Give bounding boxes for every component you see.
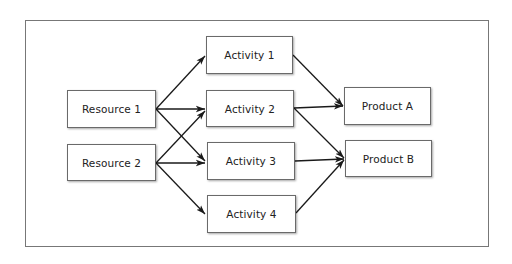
arrow-a3-pb xyxy=(295,159,344,161)
arrow-a4-pb xyxy=(296,160,344,213)
product-b-box: Product B xyxy=(345,140,432,177)
activity-1-box: Activity 1 xyxy=(206,36,293,74)
arrow-r1-a3 xyxy=(156,109,205,161)
product-a-box: Product A xyxy=(344,87,431,125)
activity-4-label: Activity 4 xyxy=(226,208,276,220)
arrow-r2-a2 xyxy=(156,111,205,163)
activity-2-box: Activity 2 xyxy=(206,90,294,127)
product-a-label: Product A xyxy=(362,100,413,112)
activity-4-box: Activity 4 xyxy=(207,195,296,233)
arrow-a2-pb xyxy=(294,108,344,158)
arrow-a2-pa xyxy=(294,106,343,108)
activity-2-label: Activity 2 xyxy=(225,103,275,115)
activity-3-box: Activity 3 xyxy=(207,142,295,180)
resource-1-box: Resource 1 xyxy=(67,90,156,128)
activity-3-label: Activity 3 xyxy=(226,155,276,167)
product-b-label: Product B xyxy=(363,153,414,165)
arrow-a1-pa xyxy=(293,55,343,106)
arrow-r2-a4 xyxy=(156,163,205,214)
resource-1-label: Resource 1 xyxy=(82,103,141,115)
resource-2-box: Resource 2 xyxy=(67,144,156,181)
arrow-r1-a1 xyxy=(156,56,205,109)
resource-2-label: Resource 2 xyxy=(82,157,141,169)
activity-1-label: Activity 1 xyxy=(224,49,274,61)
